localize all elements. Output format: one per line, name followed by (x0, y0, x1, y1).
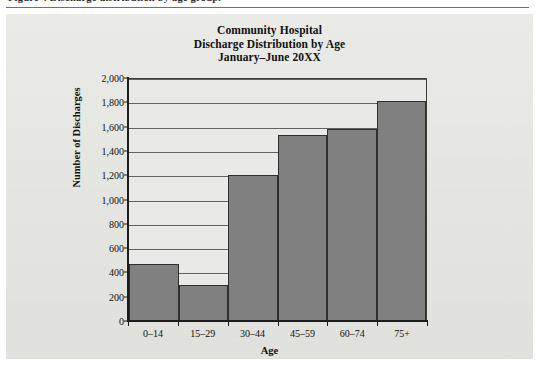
x-axis-tick-mark (278, 321, 279, 326)
bar-series (129, 79, 426, 320)
y-axis-tick-label: 1,600 (102, 121, 125, 132)
bar (228, 175, 278, 320)
x-axis-tick-label: 0–14 (128, 328, 178, 339)
x-axis-tick-mark (377, 321, 378, 326)
x-axis-tick-labels: 0–1415–2930–4445–5960–7475+ (128, 328, 427, 339)
y-axis-tick-label: 800 (109, 218, 124, 229)
y-axis-tick-label: 2,000 (102, 73, 125, 84)
x-axis-title: Age (6, 345, 533, 356)
y-axis-tick-label: 200 (109, 291, 124, 302)
bar (129, 264, 179, 320)
x-axis-tick-mark (128, 321, 129, 326)
y-axis-tick-label: 1,800 (102, 97, 125, 108)
y-axis-line (127, 77, 129, 322)
plot-area (128, 78, 427, 321)
y-axis-tick-label: 400 (109, 267, 124, 278)
figure-caption-text: Figure 4 Discharge distribution by age g… (8, 0, 221, 3)
x-axis-tick-mark (327, 321, 328, 326)
y-axis-tick-label: 1,200 (102, 170, 125, 181)
x-axis-tick-mark (228, 321, 229, 326)
y-axis-tick-label: 1,400 (102, 145, 125, 156)
figure-caption-strip: Figure 4 Discharge distribution by age g… (0, 0, 539, 9)
bar (327, 129, 377, 320)
bar (278, 135, 328, 320)
y-axis-tick-label: 1,000 (102, 194, 125, 205)
chart-panel-inner: Community Hospital Discharge Distributio… (6, 14, 533, 359)
x-axis-tick-label: 60–74 (327, 328, 377, 339)
x-axis-tick-mark (427, 321, 428, 326)
figure-stage: Figure 4 Discharge distribution by age g… (0, 0, 539, 366)
horizontal-rule (6, 7, 529, 8)
bar (377, 101, 427, 320)
y-axis-tick-label: 600 (109, 243, 124, 254)
x-axis-tick-label: 75+ (377, 328, 427, 339)
x-axis-tick-label: 30–44 (228, 328, 278, 339)
chart-panel: Community Hospital Discharge Distributio… (6, 14, 533, 359)
x-axis-tick-mark (178, 321, 179, 326)
x-axis-tick-marks (128, 321, 427, 327)
x-axis-tick-label: 45–59 (277, 328, 327, 339)
bar (179, 285, 229, 320)
y-axis-title: Number of Discharges (71, 63, 82, 213)
x-axis-tick-label: 15–29 (178, 328, 228, 339)
